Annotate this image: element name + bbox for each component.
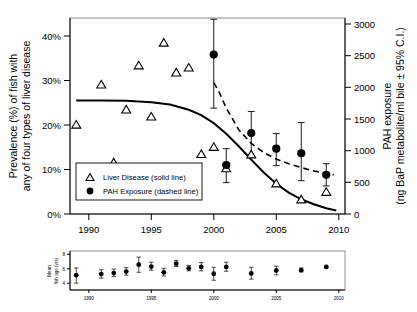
- subplot-axis-title-line2: fish age (yrs): [54, 257, 59, 284]
- subplot-xtick-label-1995: 1995: [146, 296, 157, 301]
- liver-disease-point: [134, 61, 143, 69]
- subplot-age-point: [249, 271, 254, 276]
- subplot-y-tick-labels: 4 6 8: [62, 252, 65, 286]
- liver-disease-point: [147, 112, 156, 120]
- liver-disease-point: [209, 143, 218, 151]
- liver-disease-point: [72, 121, 81, 129]
- liver-disease-point: [197, 150, 206, 158]
- subplot-age-point: [149, 264, 154, 269]
- subplot-age-point: [186, 266, 191, 271]
- subplot-age-point: [111, 271, 116, 276]
- subplot-age-point: [99, 272, 104, 277]
- y2tick-label-1000: 1000: [354, 145, 375, 156]
- pah-exposure-markers: [210, 50, 331, 178]
- left-axis-ticks: [64, 36, 70, 214]
- right-axis-tick-labels: 0 500 1000 1500 2000 2500 3000: [354, 19, 375, 220]
- figure-container: 0% 10% 20% 30% 40% Prevalence (%) of fis…: [0, 0, 417, 312]
- subplot-xtick-label-2005: 2005: [271, 296, 282, 301]
- liver-disease-point: [322, 188, 331, 196]
- liver-disease-point: [247, 150, 256, 158]
- liver-disease-point: [122, 105, 131, 113]
- x-axis-ticks: [89, 214, 339, 220]
- subplot-panel: 4 6 8 Mean fish age (yrs) 1990 1995 2000…: [47, 251, 345, 301]
- liver-disease-point: [159, 39, 168, 47]
- left-axis-title-line1: Prevalence (%) of fish with: [7, 54, 19, 178]
- pah-exposure-fit-curve: [214, 83, 334, 175]
- pah-exposure-point: [247, 129, 255, 137]
- subplot-ytick-label-8: 8: [62, 252, 65, 257]
- pah-exposure-point: [297, 149, 305, 157]
- ytick-label-40: 40%: [42, 31, 62, 42]
- subplot-age-point: [324, 264, 329, 269]
- xtick-label-2005: 2005: [266, 224, 287, 235]
- xtick-label-1995: 1995: [141, 224, 162, 235]
- pah-error-bars: [210, 19, 329, 186]
- subplot-age-point: [174, 261, 179, 266]
- subplot-age-point: [124, 269, 129, 274]
- pah-exposure-point: [210, 50, 218, 58]
- xtick-label-1990: 1990: [78, 224, 99, 235]
- ytick-label-30: 30%: [42, 75, 62, 86]
- xtick-label-2010: 2010: [328, 224, 349, 235]
- left-axis-title: Prevalence (%) of fish with any of four …: [7, 41, 32, 192]
- subplot-age-point: [211, 271, 216, 276]
- subplot-y-axis-title: Mean fish age (yrs): [47, 257, 59, 284]
- subplot-age-point: [136, 262, 141, 267]
- subplot-age-point: [161, 270, 166, 275]
- subplot-ytick-label-6: 6: [62, 267, 65, 272]
- liver-disease-point: [297, 195, 306, 203]
- pah-error-bar: [210, 19, 217, 108]
- y2tick-label-1500: 1500: [354, 114, 375, 125]
- subplot-xtick-label-1990: 1990: [84, 296, 95, 301]
- pah-exposure-point: [322, 171, 330, 179]
- ytick-label-10: 10%: [42, 164, 62, 175]
- right-axis-ticks: [345, 24, 351, 214]
- subplot-axis-title-line1: Mean: [47, 265, 52, 277]
- subplot-xtick-label-2000: 2000: [209, 296, 220, 301]
- subplot-age-point: [299, 268, 304, 273]
- y2tick-label-2500: 2500: [354, 50, 375, 61]
- subplot-xtick-label-2010: 2010: [334, 296, 345, 301]
- ytick-label-0: 0%: [47, 209, 61, 220]
- subplot-frame: [70, 251, 345, 290]
- left-axis-tick-labels: 0% 10% 20% 30% 40%: [42, 31, 62, 220]
- subplot-ytick-label-4: 4: [62, 281, 65, 286]
- y2tick-label-500: 500: [354, 177, 370, 188]
- filled-circle-icon: [87, 188, 94, 195]
- right-axis-title-line2: (ng BaP metabolite/ml bile ± 95% C.I.): [394, 27, 406, 205]
- y2tick-label-2000: 2000: [354, 82, 375, 93]
- y2tick-label-3000: 3000: [354, 19, 375, 30]
- liver-disease-point: [172, 68, 181, 76]
- subplot-age-point: [274, 268, 279, 273]
- legend-label-pah-exposure: PAH Exposure (dashed line): [103, 187, 199, 196]
- subplot-age-point: [74, 273, 79, 278]
- subplot-age-point: [199, 264, 204, 269]
- pah-exposure-point: [222, 161, 230, 169]
- main-panel: 0% 10% 20% 30% 40% Prevalence (%) of fis…: [7, 18, 406, 235]
- left-axis-title-line2: any of four types of liver disease: [20, 41, 32, 192]
- subplot-age-point: [224, 264, 229, 269]
- subplot-x-tick-labels: 1990 1995 2000 2005 2010: [84, 296, 345, 301]
- subplot-error-bars: [74, 257, 328, 283]
- pah-exposure-point: [272, 145, 280, 153]
- right-axis-title: PAH exposure (ng BaP metabolite/ml bile …: [381, 27, 406, 205]
- chart-svg: 0% 10% 20% 30% 40% Prevalence (%) of fis…: [0, 0, 417, 312]
- liver-disease-point: [184, 63, 193, 71]
- legend-label-liver-disease: Liver Disease (solid line): [103, 173, 186, 182]
- liver-disease-point: [97, 80, 106, 88]
- right-axis-title-line1: PAH exposure: [381, 82, 393, 149]
- x-axis-tick-labels: 1990 1995 2000 2005 2010: [78, 224, 349, 235]
- legend: Liver Disease (solid line) PAH Exposure …: [76, 163, 202, 200]
- ytick-label-20: 20%: [42, 120, 62, 131]
- y2tick-label-0: 0: [354, 209, 359, 220]
- xtick-label-2000: 2000: [203, 224, 224, 235]
